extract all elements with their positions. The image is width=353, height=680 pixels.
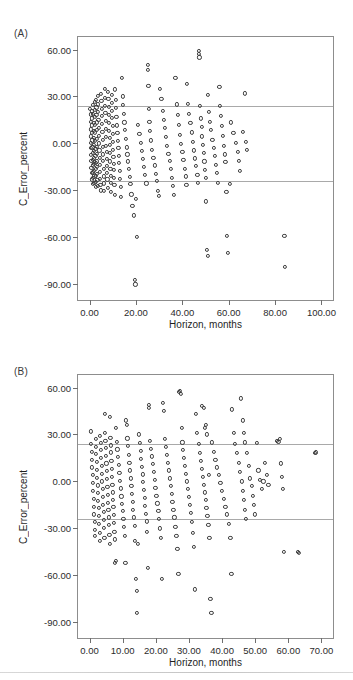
scatter-point [240,418,244,422]
scatter-point [102,181,106,185]
scatter-point [113,98,117,102]
scatter-point [103,431,107,435]
scatter-point [220,124,224,128]
x-axis-tick-label: 60.00 [276,645,300,656]
scatter-point [218,481,222,485]
scatter-point [137,432,141,436]
scatter-point [92,512,96,516]
scatter-point [91,481,95,485]
scatter-point [241,489,245,493]
scatter-point [110,482,114,486]
scatter-point [229,120,233,124]
scatter-point [139,457,143,461]
scatter-point [141,157,145,161]
scatter-point [148,439,152,443]
x-axis-tick-label: 60.00 [217,307,241,318]
y-axis-tick-label: 0.00 [53,138,72,149]
scatter-point [166,152,170,156]
scatter-point [114,426,118,430]
scatter-point [112,183,116,187]
scatter-point [174,534,178,538]
scatter-point [125,145,129,149]
scatter-point [217,85,221,89]
panel-b-plot-area [78,375,333,638]
panel-a-y-axis-title: C_Error_percent [16,36,30,301]
scatter-point [204,199,208,203]
scatter-point [219,114,223,118]
scatter-point [116,455,120,459]
scatter-point [170,492,174,496]
scatter-point [143,173,147,177]
scatter-point [98,539,102,543]
scatter-point [228,182,232,186]
scatter-point [220,489,224,493]
scatter-point [245,451,249,455]
scatter-point [183,464,187,468]
scatter-point [120,94,124,98]
scatter-point [192,148,196,152]
scatter-point [252,503,256,507]
scatter-point [129,192,133,196]
scatter-point [118,479,122,483]
scatter-point [134,576,138,580]
scatter-point [128,175,132,179]
scatter-point [230,407,234,411]
x-axis-tick [229,300,230,305]
scatter-point [203,498,207,502]
scatter-point [119,486,123,490]
scatter-point [115,447,119,451]
y-axis-tick-label: 30.00 [47,429,71,440]
scatter-point [165,144,169,148]
scatter-point [200,467,204,471]
scatter-point [173,76,177,80]
scatter-point [117,463,121,467]
scatter-point [142,496,146,500]
scatter-point [314,450,318,454]
scatter-point [245,148,249,152]
scatter-point [236,150,240,154]
scatter-point [232,431,236,435]
scatter-point [151,470,155,474]
scatter-point [218,104,222,108]
scatter-point [104,446,108,450]
scatter-point [144,511,148,515]
scatter-point [137,132,141,136]
scatter-point [116,139,120,143]
scatter-point [108,415,112,419]
scatter-point [180,150,184,154]
x-axis-tick [255,638,256,643]
scatter-point [243,508,247,512]
scatter-point [202,151,206,155]
scatter-point [112,529,116,533]
scatter-point [126,159,130,163]
x-axis-tick [288,638,289,643]
scatter-point [113,537,117,541]
scatter-point [170,176,174,180]
y-axis-tick [73,434,78,435]
scatter-point [122,120,126,124]
scatter-point [111,132,115,136]
scatter-point [176,572,180,576]
scatter-point [176,113,180,117]
scatter-point [160,576,164,580]
figure-bottom-rule [0,672,353,673]
panel-b-plot-frame: 60.0030.000.00-30.00-60.00-90.000.0010.0… [77,374,334,639]
x-axis-tick [189,638,190,643]
scatter-point [89,442,93,446]
scatter-point [187,495,191,499]
y-axis-tick [73,481,78,482]
scatter-point [106,493,110,497]
scatter-point [243,91,247,95]
scatter-point [117,471,121,475]
scatter-point [111,140,115,144]
scatter-point [169,167,173,171]
scatter-point [121,509,125,513]
scatter-point [158,526,162,530]
x-axis-tick [123,638,124,643]
scatter-point [157,194,161,198]
reference-line-lower [78,181,333,182]
scatter-point [168,476,172,480]
scatter-point [114,559,118,563]
scatter-point [105,469,109,473]
x-axis-tick-label: 50.00 [243,645,267,656]
